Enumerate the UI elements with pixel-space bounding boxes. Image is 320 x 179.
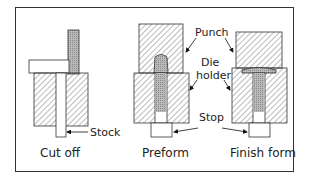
stock-label: Stock <box>90 127 120 138</box>
preform-caption: Preform <box>142 147 189 159</box>
finish-form-panel <box>222 32 287 137</box>
cut-off-panel <box>29 30 88 137</box>
stop-label: Stop <box>199 112 224 123</box>
punch-label: Punch <box>195 27 228 38</box>
cut-off-caption: Cut off <box>40 147 80 159</box>
preform-panel <box>134 24 198 137</box>
die-holder-label-line2: holder <box>196 70 231 81</box>
die-holder-label-line1: Die <box>201 57 219 68</box>
finish-form-caption: Finish form <box>230 147 296 159</box>
